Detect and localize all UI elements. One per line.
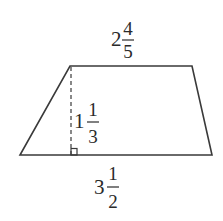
- right-angle-marker: [71, 149, 77, 156]
- bottom-base-whole: 3: [94, 175, 105, 199]
- top-base-label: 2 4 5: [111, 18, 134, 62]
- bottom-base-denominator: 2: [108, 191, 118, 212]
- trapezoid-shape: [20, 66, 212, 155]
- trapezoid-diagram: 2 4 5 1 1 3 3 1 2: [0, 0, 223, 221]
- height-denominator: 3: [88, 126, 98, 147]
- height-numerator: 1: [88, 99, 98, 120]
- top-base-numerator: 4: [123, 18, 133, 39]
- height-whole: 1: [74, 109, 85, 133]
- top-base-whole: 2: [111, 27, 122, 51]
- bottom-base-numerator: 1: [108, 163, 118, 184]
- height-label: 1 1 3: [74, 99, 99, 147]
- top-base-denominator: 5: [123, 41, 133, 62]
- bottom-base-label: 3 1 2: [94, 163, 119, 212]
